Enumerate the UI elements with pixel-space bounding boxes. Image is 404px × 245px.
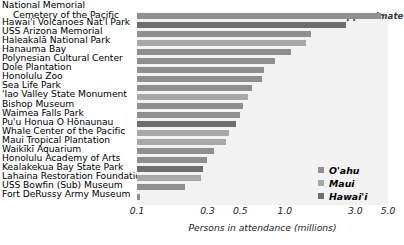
- bar: [137, 121, 236, 127]
- legend-item[interactable]: Maui: [318, 176, 393, 189]
- bar: [137, 85, 252, 91]
- bar: [137, 103, 243, 109]
- legend-label: Hawai'i: [329, 190, 367, 203]
- bar: [137, 175, 201, 181]
- bar: [137, 130, 229, 136]
- x-axis-label: Persons in attendance (millions): [137, 222, 388, 233]
- bar: [137, 184, 185, 190]
- legend-item[interactable]: O'ahu: [318, 163, 393, 176]
- axis-tick-label: 5.0: [381, 205, 396, 216]
- bar: [137, 194, 140, 200]
- axis-tick-label: 3.0: [348, 205, 363, 216]
- axis-tick-label: 1.0: [277, 205, 292, 216]
- bar: [137, 22, 346, 28]
- legend-swatch-icon: [318, 180, 324, 186]
- legend-item[interactable]: Hawai'i: [318, 189, 393, 202]
- bar: [137, 112, 240, 118]
- axis-tick-label: 0.1: [130, 205, 145, 216]
- category-label: Fort DeRussy Army Museum: [2, 189, 134, 199]
- axis-tick-label: 0.3: [200, 205, 215, 216]
- axis-tick-label: 0.5: [233, 205, 248, 216]
- legend: O'ahuMauiHawai'i: [318, 163, 393, 202]
- bar: [137, 148, 214, 154]
- bar: [137, 139, 226, 145]
- legend-swatch-icon: [318, 167, 324, 173]
- bar: [137, 157, 207, 163]
- bar: [137, 31, 311, 37]
- bar: [137, 76, 262, 82]
- bar: [137, 166, 203, 172]
- bar: [137, 58, 275, 64]
- legend-swatch-icon: [318, 193, 324, 199]
- category-label-column: National MemorialCemetery of the Pacific…: [0, 8, 134, 204]
- x-axis-ticks: 0.10.30.51.03.05.0: [137, 205, 388, 219]
- bar: [137, 49, 291, 55]
- bar: [137, 13, 381, 19]
- bar: [137, 40, 306, 46]
- bar: [137, 94, 248, 100]
- bar: [137, 67, 264, 73]
